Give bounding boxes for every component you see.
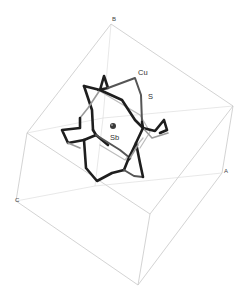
sb-atom [110,123,116,129]
bond [84,76,108,90]
atom-label-cu: Cu [138,68,148,77]
cell-edge [95,173,222,186]
cell-edge [111,24,233,106]
atom-label-s: S [148,92,153,101]
bond [62,118,84,143]
cell-edge [27,24,111,133]
bond [124,170,143,177]
cell-edge [103,106,233,118]
bond [108,78,142,122]
cell-edge [138,214,150,285]
cell-edge [16,186,95,201]
axis-label-a: A [224,168,228,174]
cell-edge [16,133,27,201]
cell-edge [222,106,233,173]
bond [68,143,80,148]
axis-label-c: C [15,197,20,203]
crystal-structure-diagram: B A C Cu S Sb [0,0,241,295]
atom-label-sb: Sb [110,133,119,142]
axis-label-b: B [112,16,116,22]
cell-edge [103,24,111,118]
cell-edge [138,173,222,285]
bond [80,90,100,118]
sb-atom-highlight [111,124,113,126]
cell-edge [95,118,103,186]
cell-edge [16,201,138,285]
